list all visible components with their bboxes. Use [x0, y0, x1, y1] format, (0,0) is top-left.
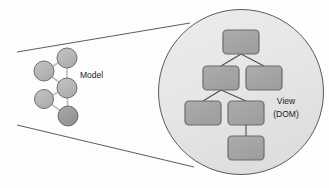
model-node-highlighted — [58, 106, 78, 126]
view-label-line1: View — [277, 96, 296, 106]
diagram-canvas: Model View (DOM) — [0, 0, 329, 188]
dom-node-box — [203, 66, 239, 90]
dom-node-box — [228, 136, 264, 160]
diagram-svg: Model View (DOM) — [0, 0, 329, 188]
model-node — [57, 48, 77, 68]
model-node — [35, 90, 54, 109]
view-label-line2: (DOM) — [273, 109, 299, 119]
dom-node-box — [228, 101, 264, 125]
model-node — [57, 78, 77, 98]
dom-node-box — [185, 101, 221, 125]
dom-node-box — [223, 30, 259, 54]
dom-node-box — [246, 66, 282, 90]
model-node — [34, 61, 54, 81]
model-label: Model — [80, 70, 103, 80]
